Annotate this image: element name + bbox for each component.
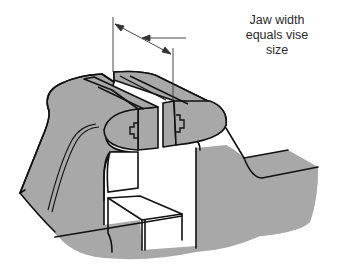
annotation-line-1: Jaw width xyxy=(222,13,332,28)
annotation-line-3: size xyxy=(222,43,332,58)
left-jaw-face xyxy=(138,107,158,150)
jaw-width-annotation: Jaw width equals vise size xyxy=(222,13,332,58)
vise-throat-opening xyxy=(107,152,138,192)
right-jaw-ellipse xyxy=(174,101,226,145)
vise-diagram: Jaw width equals vise size xyxy=(0,0,341,273)
vise-right-body xyxy=(196,145,318,250)
annotation-line-2: equals vise xyxy=(222,28,332,43)
